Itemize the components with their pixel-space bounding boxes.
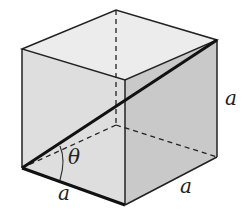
- edge-label-vertical: a: [225, 86, 237, 110]
- edge-label-bottom-right: a: [180, 174, 192, 198]
- edge-label-bottom-front: a: [58, 181, 70, 205]
- angle-label: θ: [68, 145, 80, 169]
- cube-diagram: θ a a a: [0, 0, 247, 214]
- cube-svg: θ a a a: [0, 0, 247, 214]
